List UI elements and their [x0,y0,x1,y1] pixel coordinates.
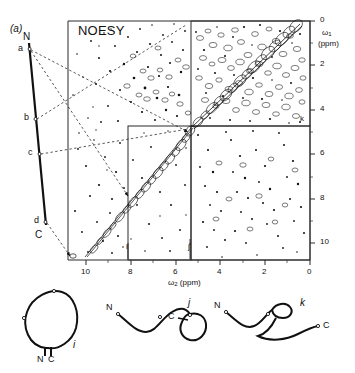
x-tick-6: 6 [173,268,177,276]
x-tick-8: 8 [128,268,132,276]
cartoon-i-label: i [73,340,75,350]
noesy-figure-svg [0,0,355,373]
x-axis-units: (ppm) [180,278,201,287]
figure-panel: (a) NOESY N a b c d C i j k ω1 (ppm) 0 2… [0,0,355,373]
cartoon-j-c-label: C [168,312,175,321]
plot-title: NOESY [78,24,125,37]
x-axis-subscript: 2 [174,281,177,287]
y-tick-4: 4 [320,105,324,113]
panel-label: (a) [10,24,22,34]
y-tick-10: 10 [320,238,329,246]
chain-residue-b: b [24,113,29,122]
t1-noise-streaks [128,239,190,259]
cartoon-i [22,289,77,356]
y-axis-subscript: 1 [328,31,331,37]
cartoon-j [116,309,206,341]
x-tick-2: 2 [262,268,266,276]
x-tick-10: 10 [81,268,90,276]
chain-line [28,43,47,225]
origin-peak [70,254,76,258]
spectrum-peaks [70,17,306,259]
peak-dots-jbox [197,130,305,258]
cartoon-j-label: j [188,298,190,308]
y-axis-label: ω1 [322,29,332,37]
cartoon-k [224,304,319,340]
region-label-j: j [188,243,190,251]
region-label-i: i [126,243,128,251]
peak-cluster-aliphatic [196,27,306,118]
chain-c-terminus-label: C [35,230,42,240]
peak-dots-fingerprint [87,23,186,123]
chain-n-terminus-label: N [23,32,30,42]
cartoon-j-n-label: N [106,303,113,312]
y-axis-ticks [310,21,315,243]
region-box-j [191,126,310,260]
connector-lines [31,25,188,256]
x-tick-0: 0 [307,268,311,276]
y-tick-8: 8 [320,194,324,202]
cartoon-i-n-label: N [37,355,44,364]
plot-frame [68,21,310,260]
peak-dots-sparse [72,28,191,244]
x-axis-label: ω2 (ppm) [168,279,201,287]
y-tick-2: 2 [320,60,324,68]
x-axis-ticks [86,260,310,265]
region-label-k: k [300,115,304,123]
chain-residue-a: a [18,44,23,53]
chain-residue-d: d [34,216,39,225]
cartoon-i-c-label: C [48,355,55,364]
peak-contours-jbox [213,157,298,231]
chain-residue-c: c [28,148,33,157]
y-tick-0: 0 [320,16,324,24]
y-axis-units: (ppm) [318,40,339,48]
peak-dots-amide-amide [74,132,187,254]
cartoon-k-n-label: N [214,301,221,310]
peak-contours-fingerprint [124,46,191,115]
x-tick-4: 4 [217,268,221,276]
y-tick-6: 6 [320,149,324,157]
cartoon-k-c-label: C [323,321,330,330]
cartoon-k-label: k [300,298,305,308]
